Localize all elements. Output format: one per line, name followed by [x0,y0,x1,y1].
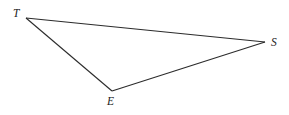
edge-e-s [112,42,265,91]
vertex-label-e: E [106,95,114,107]
edge-t-s [26,18,265,42]
vertex-label-t: T [13,7,21,19]
triangle-diagram: T E S [0,0,289,115]
edge-t-e [26,18,112,91]
vertex-label-s: S [271,36,277,48]
